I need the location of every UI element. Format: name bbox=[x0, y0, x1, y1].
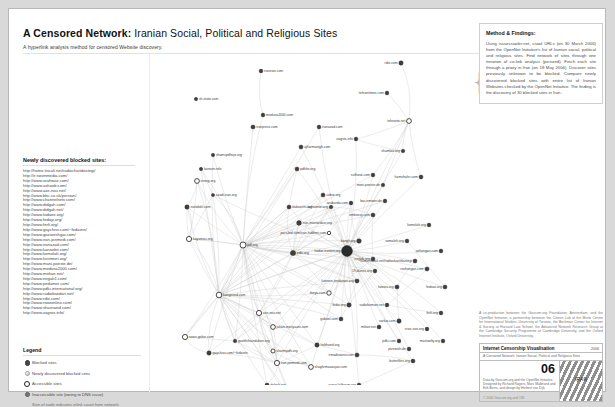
network-node[interactable]: home.tiscali.net/radiochart/dastegi bbox=[360, 259, 417, 263]
node-circle[interactable] bbox=[186, 236, 191, 241]
node-circle[interactable] bbox=[211, 153, 214, 156]
network-node[interactable]: fatows.org bbox=[378, 285, 399, 289]
node-circle[interactable] bbox=[299, 145, 303, 149]
network-node[interactable]: pdf.org bbox=[240, 242, 258, 248]
node-circle[interactable] bbox=[377, 325, 381, 329]
network-node[interactable]: dorya.com bbox=[310, 291, 331, 295]
network-node[interactable]: sh-state.com bbox=[194, 97, 218, 101]
node-circle[interactable] bbox=[407, 119, 412, 124]
network-node[interactable]: sarkar.com bbox=[379, 319, 401, 323]
node-circle[interactable] bbox=[355, 353, 359, 357]
network-node[interactable]: pdki.com bbox=[382, 339, 401, 343]
node-circle[interactable] bbox=[439, 311, 443, 315]
node-circle[interactable] bbox=[207, 351, 211, 355]
network-node[interactable]: pivewish.de bbox=[388, 347, 411, 351]
node-circle[interactable] bbox=[274, 360, 279, 365]
node-circle[interactable] bbox=[182, 334, 187, 339]
node-circle[interactable] bbox=[441, 339, 445, 343]
network-node[interactable]: iran-jonmedi.com bbox=[274, 360, 307, 365]
network-node[interactable]: news.gofan.com bbox=[182, 334, 213, 339]
node-circle[interactable] bbox=[347, 303, 351, 307]
network-node[interactable]: hayatnou.org bbox=[186, 236, 212, 241]
node-circle[interactable] bbox=[354, 137, 358, 141]
network-node[interactable]: irmadistaniv.com bbox=[329, 353, 360, 357]
network-node[interactable]: tehrantimes.com bbox=[359, 91, 389, 95]
node-circle[interactable] bbox=[327, 231, 330, 234]
node-circle[interactable] bbox=[407, 347, 411, 351]
network-node[interactable]: fedai.org bbox=[332, 303, 351, 307]
network-node[interactable]: rdio.com bbox=[385, 61, 404, 65]
node-circle[interactable] bbox=[199, 167, 202, 170]
node-circle[interactable] bbox=[321, 193, 325, 197]
node-circle[interactable] bbox=[240, 242, 246, 248]
node-circle[interactable] bbox=[357, 239, 362, 244]
node-circle[interactable] bbox=[327, 291, 331, 295]
network-node[interactable]: butterfiles.org bbox=[389, 359, 415, 363]
network-node[interactable]: shamspdh.org bbox=[271, 349, 298, 353]
node-circle[interactable] bbox=[259, 69, 263, 73]
network-node[interactable]: ajharmanigh.com bbox=[299, 145, 330, 149]
node-circle[interactable] bbox=[349, 201, 353, 205]
network-node[interactable]: pdkho.org bbox=[295, 167, 315, 171]
node-circle[interactable] bbox=[405, 239, 409, 243]
network-node[interactable]: kangli.org bbox=[341, 239, 362, 244]
node-circle[interactable] bbox=[411, 359, 415, 363]
node-circle[interactable] bbox=[295, 167, 299, 171]
node-circle[interactable] bbox=[297, 221, 302, 226]
node-circle[interactable] bbox=[439, 249, 443, 253]
node-circle[interactable] bbox=[399, 61, 403, 65]
network-node[interactable]: dolgah.net bbox=[265, 383, 286, 385]
node-circle[interactable] bbox=[256, 310, 261, 315]
node-circle[interactable] bbox=[397, 339, 401, 343]
node-circle[interactable] bbox=[271, 325, 276, 330]
network-node[interactable]: gobool.com bbox=[320, 317, 343, 321]
node-circle[interactable] bbox=[339, 317, 343, 321]
network-node[interactable]: pdki.org bbox=[290, 250, 309, 255]
node-circle[interactable] bbox=[287, 205, 291, 209]
node-circle[interactable] bbox=[413, 259, 417, 263]
network-nodes[interactable]: iranews.comsh-state.comrdio.commedusa200… bbox=[182, 61, 447, 385]
hyperlink-network-graph[interactable]: iranews.comsh-state.comrdio.commedusa200… bbox=[151, 55, 473, 385]
node-circle[interactable] bbox=[271, 349, 275, 353]
network-node[interactable]: bar-emtwer.de bbox=[360, 199, 387, 203]
node-circle[interactable] bbox=[342, 246, 353, 257]
network-node[interactable]: iranews.com bbox=[259, 69, 283, 73]
node-circle[interactable] bbox=[385, 91, 389, 95]
network-node[interactable]: kanoon.info bbox=[199, 167, 221, 171]
node-circle[interactable] bbox=[371, 173, 375, 177]
network-node[interactable]: iranidahl.com bbox=[185, 205, 211, 209]
network-node[interactable]: vroz-iran.org bbox=[405, 327, 429, 331]
blocked-site-url[interactable]: http://www.zagros.info/ bbox=[23, 311, 141, 316]
node-circle[interactable] bbox=[425, 267, 429, 271]
network-node[interactable]: iirnwg.org bbox=[195, 179, 216, 184]
node-circle[interactable] bbox=[290, 250, 295, 255]
node-circle[interactable] bbox=[385, 303, 389, 307]
network-node[interactable]: vabat.org bbox=[321, 193, 340, 197]
network-node[interactable]: iranpress.com bbox=[251, 125, 278, 129]
network-node[interactable]: roshangari.com bbox=[400, 267, 429, 271]
network-node[interactable]: mihan.net bbox=[361, 325, 381, 329]
node-circle[interactable] bbox=[309, 365, 314, 370]
node-circle[interactable] bbox=[195, 179, 200, 184]
network-node[interactable]: iranazad.com bbox=[317, 125, 343, 129]
node-circle[interactable] bbox=[425, 327, 429, 331]
node-circle[interactable] bbox=[371, 213, 375, 217]
network-node[interactable]: axe-nou.net bbox=[256, 310, 280, 315]
network-node[interactable]: hamshahri.com bbox=[395, 175, 423, 179]
node-circle[interactable] bbox=[427, 223, 431, 227]
node-circle[interactable] bbox=[355, 279, 359, 283]
node-circle[interactable] bbox=[443, 285, 447, 289]
node-circle[interactable] bbox=[397, 319, 401, 323]
network-node[interactable]: shamloo.org bbox=[381, 149, 404, 153]
network-node[interactable]: kanoon-tendanan.org bbox=[321, 279, 359, 283]
network-node[interactable]: mastoolty.org bbox=[420, 339, 445, 343]
network-node[interactable]: arabarda.com bbox=[327, 201, 353, 205]
node-circle[interactable] bbox=[383, 199, 387, 203]
node-circle[interactable] bbox=[381, 183, 385, 187]
network-node[interactable]: tehranto.net bbox=[387, 119, 411, 124]
node-circle[interactable] bbox=[329, 205, 333, 209]
network-node[interactable]: gozbhifoundation.org bbox=[233, 339, 270, 343]
node-circle[interactable] bbox=[419, 175, 423, 179]
network-node[interactable]: zagros.info bbox=[336, 137, 358, 141]
network-node[interactable]: hedar-iranien.org bbox=[315, 246, 353, 257]
